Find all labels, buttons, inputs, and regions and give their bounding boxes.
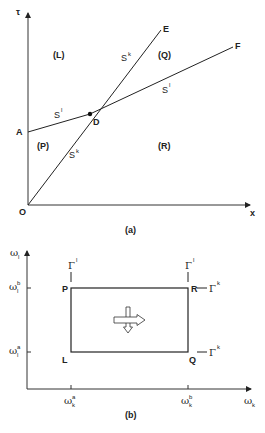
corner-r-label: R — [191, 284, 198, 294]
svg-text:k: k — [72, 402, 76, 408]
svg-text:l: l — [17, 288, 18, 294]
svg-text:Γ: Γ — [68, 260, 75, 271]
svg-text:l: l — [76, 257, 77, 263]
gamma-l-r-label: Γ l — [185, 257, 194, 271]
svg-text:k: k — [252, 402, 256, 408]
tau-axis-label: τ — [16, 7, 20, 17]
point-d-label: D — [93, 117, 100, 127]
caption-a: (a) — [125, 225, 136, 235]
svg-text:ω: ω — [10, 247, 18, 258]
figure-canvas: τ x O A D E F (L) (Q) (P) (R) S k S l S … — [0, 0, 265, 433]
svg-text:b: b — [189, 394, 193, 400]
region-p-label: (P) — [37, 141, 49, 151]
tick-label-omega-l-b: ω b l — [9, 280, 21, 294]
point-e-label: E — [163, 24, 169, 34]
svg-text:k: k — [217, 344, 221, 350]
tick-label-omega-k-a: ω a k — [64, 394, 76, 408]
region-l-label: (L) — [53, 50, 65, 60]
sl-left-label: S l — [54, 107, 62, 120]
point-f-label: F — [235, 41, 241, 51]
svg-text:l: l — [193, 257, 194, 263]
x-axis-label: x — [250, 208, 255, 218]
region-q-label: (Q) — [158, 50, 171, 60]
gamma-l-p-label: Γ l — [68, 257, 77, 271]
svg-text:ω: ω — [9, 345, 17, 356]
svg-text:l: l — [61, 107, 62, 113]
omega-l-axis-label: ω l — [10, 247, 19, 260]
tick-label-omega-l-a: ω a l — [9, 344, 21, 358]
sk-upper-label: S k — [121, 51, 132, 63]
svg-text:ω: ω — [244, 395, 252, 406]
svg-text:k: k — [76, 148, 80, 154]
corner-l-label: L — [62, 355, 68, 365]
sk-lower-label: S k — [69, 148, 80, 160]
gamma-k-r-label: Γ k — [209, 280, 221, 294]
tick-label-omega-k-b: ω b k — [181, 394, 193, 408]
origin-label: O — [19, 207, 26, 217]
svg-text:Γ: Γ — [209, 283, 216, 294]
svg-text:S: S — [121, 53, 127, 63]
intersection-point-d — [88, 112, 92, 116]
region-r-label: (R) — [158, 141, 171, 151]
figure-a: τ x O A D E F (L) (Q) (P) (R) S k S l S … — [16, 7, 255, 235]
svg-text:ω: ω — [181, 395, 189, 406]
svg-text:k: k — [128, 51, 132, 57]
corner-p-label: P — [62, 284, 68, 294]
sl-right-label: S l — [162, 82, 170, 95]
svg-text:l: l — [17, 352, 18, 358]
svg-text:a: a — [72, 394, 76, 400]
svg-text:ω: ω — [9, 281, 17, 292]
svg-text:Γ: Γ — [209, 347, 216, 358]
svg-text:a: a — [17, 344, 21, 350]
svg-text:l: l — [18, 254, 19, 260]
sweep-direction-arrows-icon — [114, 307, 145, 333]
caption-b: (b) — [125, 410, 137, 420]
corner-q-label: Q — [189, 355, 196, 365]
omega-k-axis-label: ω k — [244, 395, 256, 408]
svg-text:k: k — [189, 402, 193, 408]
svg-text:S: S — [162, 85, 168, 95]
svg-text:S: S — [54, 110, 60, 120]
svg-text:b: b — [17, 280, 21, 286]
svg-text:k: k — [217, 280, 221, 286]
svg-text:ω: ω — [64, 395, 72, 406]
gamma-k-q-label: Γ k — [209, 344, 221, 358]
svg-text:l: l — [169, 82, 170, 88]
svg-text:Γ: Γ — [185, 260, 192, 271]
figure-b: ω l ω k ω b l ω a l ω a k ω b k — [9, 247, 256, 420]
point-a-label: A — [16, 127, 23, 137]
svg-text:S: S — [69, 150, 75, 160]
